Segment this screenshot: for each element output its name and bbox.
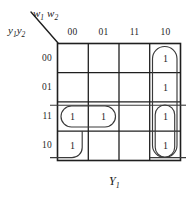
column-header-3: 10 [150, 28, 181, 38]
row-var-y2: y2 [17, 24, 26, 36]
kmap-cell-r01-c10: 1 [150, 82, 181, 93]
kmap-cell-r10-c00: 1 [57, 140, 88, 151]
column-variables-label: w1w2 [33, 7, 58, 22]
column-header-1: 01 [88, 28, 119, 38]
row-header-2: 11 [32, 112, 52, 122]
row-variables-label: y1y2 [8, 24, 25, 39]
kmap-cell-r11-c10: 1 [150, 111, 181, 122]
function-label-text: Y [109, 174, 116, 188]
column-header-2: 11 [119, 28, 150, 38]
kmap-cell-r10-c10: 1 [150, 140, 181, 151]
kmap-cell-r00-c10: 1 [150, 53, 181, 64]
function-label-subscript: 1 [116, 181, 120, 190]
row-var-y1: y1 [8, 24, 17, 36]
row-header-1: 01 [32, 83, 52, 93]
column-header-0: 00 [57, 28, 88, 38]
function-label: Y1 [109, 174, 120, 190]
column-var-w1: w1 [33, 7, 44, 19]
column-var-w2: w2 [47, 7, 58, 19]
kmap-cell-r11-c00: 1 [57, 111, 88, 122]
kmap-cell-r11-c01: 1 [88, 111, 119, 122]
karnaugh-map-figure: w1w2 y1y2 00 01 11 10 00 01 11 10 1 1 1 … [0, 0, 186, 200]
row-header-0: 00 [32, 54, 52, 64]
row-header-3: 10 [32, 141, 52, 151]
